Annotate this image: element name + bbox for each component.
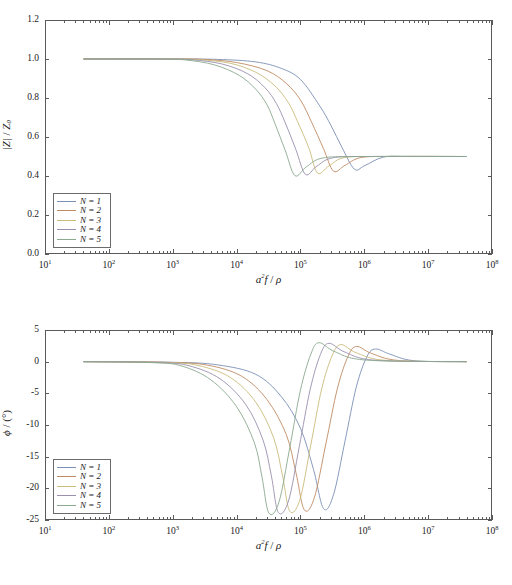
legend-entry: N = 5	[57, 501, 106, 511]
series-line-1	[83, 349, 466, 510]
legend-color-swatch	[57, 467, 76, 468]
series-line-4	[83, 343, 466, 514]
phase-panel: ϕ / (°) a2f / ρ 50-5-10-15-20-25 1011021…	[0, 0, 512, 585]
legend-color-swatch	[57, 486, 76, 487]
legend-label: N = 5	[80, 501, 101, 511]
legend-color-swatch	[57, 476, 76, 477]
series-line-2	[83, 346, 466, 511]
legend-color-swatch	[57, 505, 76, 506]
series-line-5	[83, 343, 466, 515]
series-line-3	[83, 345, 466, 513]
figure-root: |Z| / Z0 a2f / ρ 0.00.20.40.60.81.01.2 1…	[0, 0, 512, 585]
legend-color-swatch	[57, 495, 76, 496]
phase-legend: N = 1N = 2N = 3N = 4N = 5	[53, 459, 111, 515]
